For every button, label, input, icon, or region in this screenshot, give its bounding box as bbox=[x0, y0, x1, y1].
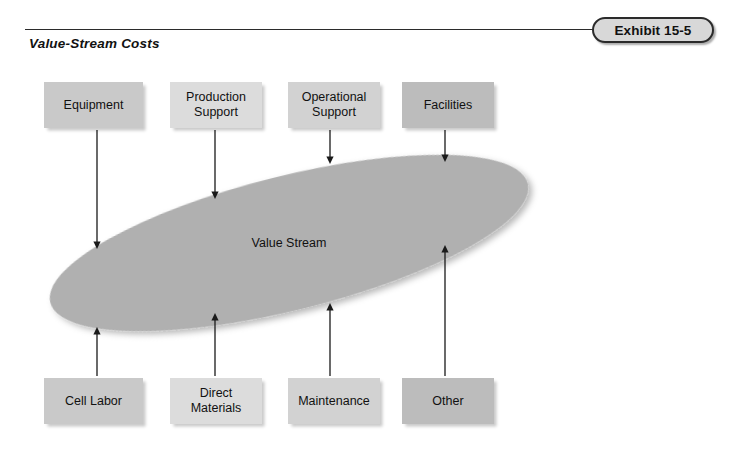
cost-box-equipment: Equipment bbox=[44, 82, 143, 128]
cost-box-cell-labor: Cell Labor bbox=[44, 378, 143, 424]
cost-box-label: DirectMaterials bbox=[187, 386, 246, 416]
cost-box-label: Equipment bbox=[60, 98, 128, 113]
cost-box-label: Facilities bbox=[420, 98, 477, 113]
cost-box-operational-support: OperationalSupport bbox=[288, 82, 380, 128]
cost-box-label: Cell Labor bbox=[61, 394, 126, 409]
cost-box-label: Maintenance bbox=[294, 394, 374, 409]
cost-box-label: OperationalSupport bbox=[298, 90, 371, 120]
cost-box-label: ProductionSupport bbox=[182, 90, 250, 120]
cost-box-other: Other bbox=[402, 378, 494, 424]
cost-box-maintenance: Maintenance bbox=[288, 378, 380, 424]
value-stream-label: Value Stream bbox=[252, 236, 327, 250]
cost-box-direct-materials: DirectMaterials bbox=[170, 378, 262, 424]
cost-box-facilities: Facilities bbox=[402, 82, 494, 128]
exhibit-page: Exhibit 15-5 Value-Stream Costs Value St… bbox=[0, 0, 753, 450]
cost-box-production-support: ProductionSupport bbox=[170, 82, 262, 128]
cost-box-label: Other bbox=[428, 394, 467, 409]
